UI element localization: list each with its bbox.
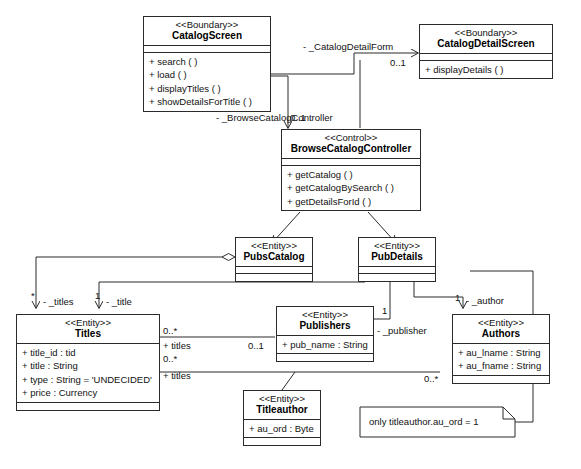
class-name: CatalogScreen: [148, 30, 266, 42]
class-name: Authors: [457, 328, 545, 340]
operation-item: + getCatalog ( ): [282, 168, 420, 181]
class-header-authors: <<Entity>> Authors: [453, 315, 549, 344]
class-stereotype: <<Entity>>: [457, 317, 545, 328]
class-stereotype: <<Entity>>: [248, 393, 316, 404]
edge-label-catalog-detail-form-role: - _CatalogDetailForm: [303, 41, 393, 52]
aggregation-diamond-pubscatalog: [222, 254, 235, 261]
class-attributes-compartment: [420, 54, 552, 61]
attribute-item: + title_id : tid: [17, 346, 159, 359]
class-attributes-compartment: + title_id : tid + title : String + type…: [17, 344, 159, 403]
class-attributes-compartment: [236, 267, 312, 274]
attribute-item: + title : String: [17, 359, 159, 372]
class-stereotype: <<Boundary>>: [148, 19, 266, 30]
edge-label-publisher-role: - _publisher: [377, 325, 427, 336]
class-stereotype: <<Entity>>: [240, 240, 308, 251]
attribute-item: + au_lname : String: [453, 346, 549, 359]
class-attributes-compartment: + au_ord : Byte: [244, 420, 320, 438]
class-attributes-compartment: [359, 267, 435, 274]
class-operations-compartment: [359, 274, 435, 281]
edge-label-titles-assoc-role-top: + titles: [163, 340, 191, 351]
edge-label-author-one-mult: 1: [455, 292, 460, 303]
class-stereotype: <<Entity>>: [21, 317, 155, 328]
class-header-catalog-screen: <<Boundary>> CatalogScreen: [144, 17, 270, 46]
class-box-catalog-detail-screen[interactable]: <<Boundary>> CatalogDetailScreen + displ…: [419, 24, 553, 79]
class-attributes-compartment: + pub_name : String: [277, 336, 373, 354]
operation-item: + displayDetails ( ): [420, 63, 552, 76]
class-header-publishers: <<Entity>> Publishers: [277, 307, 373, 336]
class-header-catalog-detail-screen: <<Boundary>> CatalogDetailScreen: [420, 25, 552, 54]
operation-item: + displayTitles ( ): [144, 82, 270, 95]
class-box-titleauthor[interactable]: <<Entity>> Titleauthor + au_ord : Byte: [243, 390, 321, 446]
class-attributes-compartment: [282, 159, 420, 166]
operation-item: + load ( ): [144, 68, 270, 81]
class-operations-compartment: [244, 438, 320, 445]
class-header-browse-catalog-controller: <<Control>> BrowseCatalogController: [282, 130, 420, 159]
class-name: PubDetails: [363, 251, 431, 263]
class-attributes-compartment: + au_lname : String + au_fname : String: [453, 344, 549, 376]
class-box-publishers[interactable]: <<Entity>> Publishers + pub_name : Strin…: [276, 306, 374, 362]
class-header-pub-details: <<Entity>> PubDetails: [359, 238, 435, 267]
attribute-item: + pub_name : String: [277, 338, 373, 351]
edge-label-titles-assoc-role-bottom: + titles: [163, 370, 191, 381]
edge-label-authors-many-mult: 0..*: [424, 373, 438, 384]
class-box-browse-catalog-controller[interactable]: <<Control>> BrowseCatalogController + ge…: [281, 129, 421, 211]
class-attributes-compartment: [144, 46, 270, 53]
class-operations-compartment: [453, 376, 549, 383]
class-stereotype: <<Control>>: [286, 132, 416, 143]
edge-label-titles-assoc-mult-bottom: 0..*: [163, 353, 177, 364]
edge-label-author-role: - _author: [466, 295, 504, 306]
class-box-authors[interactable]: <<Entity>> Authors + au_lname : String +…: [452, 314, 550, 384]
class-name: CatalogDetailScreen: [424, 38, 548, 50]
edge-label-titles-assoc-mult-top: 0..*: [163, 325, 177, 336]
class-operations-compartment: + displayDetails ( ): [420, 61, 552, 78]
class-name: Titleauthor: [248, 404, 316, 416]
class-name: BrowseCatalogController: [286, 143, 416, 155]
class-stereotype: <<Entity>>: [281, 309, 369, 320]
attribute-item: + au_ord : Byte: [244, 422, 320, 435]
edge-label-catalog-detail-form-mult: 0..1: [390, 57, 406, 68]
attribute-item: + au_fname : String: [453, 359, 549, 372]
class-operations-compartment: [236, 274, 312, 281]
class-box-pub-details[interactable]: <<Entity>> PubDetails: [358, 237, 436, 282]
attribute-item: + type : String = 'UNDECIDED': [17, 373, 159, 386]
class-name: Publishers: [281, 320, 369, 332]
class-operations-compartment: + search ( ) + load ( ) + displayTitles …: [144, 53, 270, 111]
class-header-titles: <<Entity>> Titles: [17, 315, 159, 344]
attribute-item: + price : Currency: [17, 386, 159, 399]
edge-label-titles-role: - _titles: [43, 296, 74, 307]
operation-item: + getDetailsForId ( ): [282, 195, 420, 208]
edge-label-publisher-one-mult: 1: [382, 305, 387, 316]
edge-label-title-one-mult: 1: [95, 290, 100, 301]
operation-item: + search ( ): [144, 55, 270, 68]
class-operations-compartment: [17, 403, 159, 410]
class-header-pubs-catalog: <<Entity>> PubsCatalog: [236, 238, 312, 267]
class-box-titles[interactable]: <<Entity>> Titles + title_id : tid + tit…: [16, 314, 160, 411]
class-header-titleauthor: <<Entity>> Titleauthor: [244, 391, 320, 420]
operation-item: + showDetailsForTitle ( ): [144, 95, 270, 108]
edge-label-publishers-mult: 0..1: [248, 340, 264, 351]
uml-class-diagram: <<Boundary>> CatalogScreen + search ( ) …: [0, 0, 581, 469]
edge-label-browse-catalog-controller-role: - _BrowseCatalogController: [216, 112, 333, 123]
line-titleauthor-association-class: [282, 372, 295, 390]
class-name: PubsCatalog: [240, 251, 308, 263]
class-stereotype: <<Entity>>: [363, 240, 431, 251]
constraint-note-text: only titleauthor.au_ord = 1: [369, 416, 479, 427]
line-pubdetails-to-titles: [99, 282, 365, 308]
edge-label-browse-catalog-controller-mult: 0..1: [290, 112, 306, 123]
operation-item: + getCatalogBySearch ( ): [282, 181, 420, 194]
class-operations-compartment: + getCatalog ( ) + getCatalogBySearch ( …: [282, 166, 420, 210]
edge-label-titles-star-mult: *: [31, 290, 35, 301]
class-name: Titles: [21, 328, 155, 340]
class-operations-compartment: [277, 354, 373, 361]
class-stereotype: <<Boundary>>: [424, 27, 548, 38]
class-box-pubs-catalog[interactable]: <<Entity>> PubsCatalog: [235, 237, 313, 282]
class-box-catalog-screen[interactable]: <<Boundary>> CatalogScreen + search ( ) …: [143, 16, 271, 112]
edge-label-title-role: - _title: [106, 296, 132, 307]
